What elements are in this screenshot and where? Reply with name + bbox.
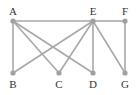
- node-label-B: B: [9, 78, 16, 90]
- node-A: [10, 18, 15, 23]
- node-B: [10, 70, 15, 75]
- nodes: [10, 18, 127, 75]
- node-label-E: E: [90, 5, 97, 17]
- node-label-A: A: [9, 5, 17, 17]
- node-G: [122, 70, 127, 75]
- node-label-D: D: [89, 78, 97, 90]
- edge-E-G: [93, 21, 125, 73]
- graph-diagram: AEFBCDG: [0, 0, 136, 95]
- node-D: [90, 70, 95, 75]
- edge-E-C: [59, 21, 93, 73]
- node-label-C: C: [55, 78, 62, 90]
- node-C: [56, 70, 61, 75]
- node-label-G: G: [121, 78, 129, 90]
- labels: AEFBCDG: [9, 5, 129, 90]
- node-label-F: F: [122, 5, 128, 17]
- edges: [13, 21, 125, 73]
- node-F: [122, 18, 127, 23]
- node-E: [90, 18, 95, 23]
